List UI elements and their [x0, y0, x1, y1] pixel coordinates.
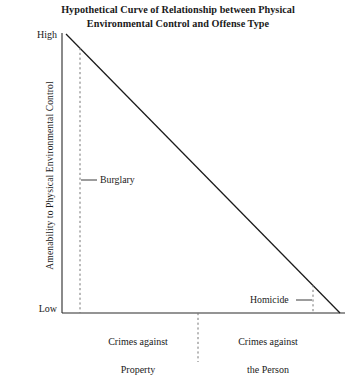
category-label-person: Crimes against the Person [198, 321, 338, 379]
category-person-line-1: Crimes against [198, 335, 338, 349]
category-property-line-2: Property [78, 363, 198, 377]
category-property-line-1: Crimes against [78, 335, 198, 349]
category-label-property: Crimes against Property [78, 321, 198, 379]
y-axis-title: Amenability to Physical Environmental Co… [44, 31, 55, 321]
annotation-burglary: Burglary [100, 174, 135, 185]
category-person-line-2: the Person [198, 363, 338, 377]
annotation-homicide: Homicide [250, 294, 289, 305]
